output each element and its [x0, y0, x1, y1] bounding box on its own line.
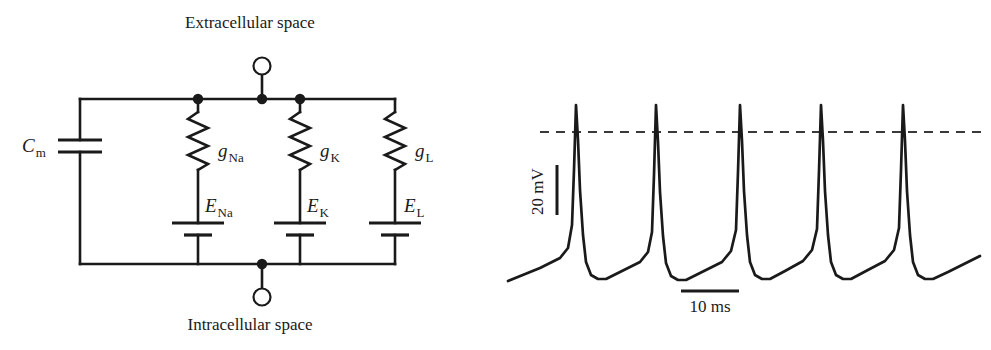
sodium-branch: gNa ENa	[172, 99, 244, 264]
voltage-scalebar-label: 20 mV	[528, 168, 547, 215]
k-battery-subscript: K	[320, 205, 330, 220]
l-conductance-symbol: g	[415, 140, 425, 161]
capacitor-subscript: m	[36, 145, 46, 160]
intracellular-terminal	[254, 264, 271, 306]
leak-branch: gL EL	[369, 112, 434, 264]
k-conductance-label: gK	[320, 140, 341, 165]
spike-train-panel: 20 mV 10 ms	[470, 0, 991, 350]
l-conductance-subscript: L	[426, 150, 434, 165]
junction-dot-terminal-top	[257, 94, 267, 104]
intracellular-terminal-circle	[254, 289, 271, 306]
na-conductance-subscript: Na	[229, 150, 244, 165]
junction-dot-terminal-bottom	[257, 259, 267, 269]
circuit-svg: Extracellular space Intracellular space	[0, 0, 470, 350]
k-conductance-symbol: g	[320, 140, 330, 161]
l-resistor-zigzag	[385, 112, 405, 170]
l-conductance-label: gL	[415, 140, 434, 165]
extracellular-terminal	[254, 58, 271, 100]
l-battery-symbol: E	[403, 195, 416, 216]
k-conductance-subscript: K	[331, 150, 341, 165]
time-scalebar: 10 ms	[681, 291, 739, 316]
l-battery-label: EL	[403, 195, 425, 220]
extracellular-terminal-circle	[254, 58, 271, 75]
time-scalebar-label: 10 ms	[689, 297, 730, 316]
na-battery-subscript: Na	[218, 205, 233, 220]
potassium-branch: gK EK	[274, 99, 341, 264]
spike-train-svg: 20 mV 10 ms	[470, 0, 991, 350]
capacitor-label: Cm	[22, 135, 46, 160]
figure-root: Extracellular space Intracellular space	[0, 0, 991, 350]
na-battery-symbol: E	[204, 195, 217, 216]
k-resistor-zigzag	[290, 112, 310, 170]
voltage-scalebar: 20 mV	[528, 165, 557, 215]
intracellular-space-label: Intracellular space	[187, 315, 312, 334]
junction-dots	[193, 94, 305, 269]
junction-dot-na-top	[193, 94, 203, 104]
capacitor-symbol: C	[22, 135, 35, 156]
k-battery-symbol: E	[306, 195, 319, 216]
extracellular-space-label: Extracellular space	[185, 13, 315, 32]
k-battery-label: EK	[306, 195, 330, 220]
na-conductance-label: gNa	[218, 140, 244, 165]
na-conductance-symbol: g	[218, 140, 228, 161]
na-battery-label: ENa	[204, 195, 233, 220]
na-resistor-zigzag	[188, 112, 208, 170]
junction-dot-k-top	[295, 94, 305, 104]
l-battery-subscript: L	[417, 205, 425, 220]
circuit-diagram-panel: Extracellular space Intracellular space	[0, 0, 470, 350]
